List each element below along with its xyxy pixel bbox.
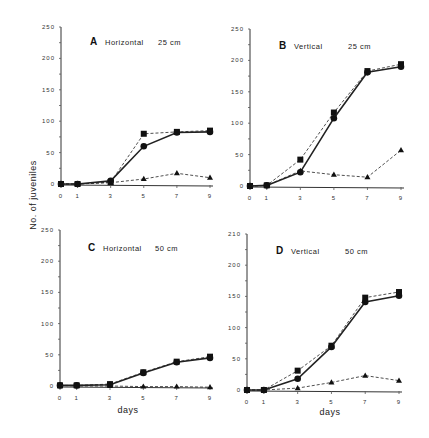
y-tick-label: 210 — [228, 231, 241, 237]
triangle-marker — [398, 147, 404, 152]
x-tick-label: 3 — [295, 399, 299, 405]
panel-letter: D — [276, 245, 283, 256]
series-line-circle — [61, 132, 210, 184]
y-tick-label: 200 — [42, 55, 55, 61]
series-line-triangle — [61, 173, 210, 184]
y-tick-label: 250 — [42, 24, 55, 30]
panel-depth: 50 cm — [155, 244, 178, 253]
x-tick-label: 3 — [298, 195, 302, 201]
x-tick-label: 1 — [74, 395, 78, 401]
x-tick-label: 5 — [329, 399, 333, 405]
x-tick-label: 7 — [175, 193, 179, 199]
x-tick-label: 7 — [174, 395, 178, 401]
y-tick-label: 250 — [231, 26, 244, 32]
triangle-marker — [207, 384, 213, 389]
circle-marker — [174, 129, 181, 136]
circle-marker — [294, 375, 301, 382]
panel-orientation: Vertical — [291, 247, 320, 256]
x-tick-label: 1 — [262, 399, 266, 405]
triangle-marker — [174, 383, 180, 388]
circle-marker — [362, 299, 369, 306]
panel-letter: B — [279, 40, 286, 51]
x-tick-label: 5 — [332, 195, 336, 201]
x-axis-label: days — [117, 405, 138, 415]
circle-marker — [140, 370, 147, 377]
series-line-square — [61, 131, 210, 184]
circle-marker — [331, 115, 338, 122]
y-tick-label: 150 — [228, 293, 241, 299]
x-tick-label: 7 — [365, 195, 369, 201]
y-tick-label: 200 — [41, 258, 54, 264]
y-tick-label: 150 — [41, 289, 54, 295]
x-tick-label: 9 — [397, 399, 401, 405]
triangle-marker — [331, 171, 337, 176]
x-tick-label: 9 — [208, 395, 212, 401]
circle-marker — [207, 129, 214, 136]
x-tick-label: 9 — [399, 195, 403, 201]
x-tick-label: 9 — [208, 193, 212, 199]
square-marker — [141, 131, 147, 137]
x-tick-label: 5 — [142, 193, 146, 199]
panel-letter: A — [90, 36, 97, 47]
series-line-triangle — [250, 150, 401, 186]
x-axis-label: days — [319, 407, 340, 417]
x-tick-label: 3 — [108, 395, 112, 401]
y-tick-label: 50 — [46, 150, 55, 156]
panel-a: 050100150200250013579AHorizontal25 cm — [42, 24, 213, 199]
square-marker — [297, 157, 303, 163]
series-line-square — [247, 292, 399, 390]
triangle-marker — [364, 174, 370, 179]
circle-marker — [207, 355, 214, 362]
x-tick-label: 0 — [248, 195, 252, 201]
y-tick-label: 0 — [240, 183, 244, 189]
panel-d: 050100150200210013579DVertical50 cm — [228, 231, 402, 405]
y-tick-label: 200 — [228, 262, 241, 268]
y-axis-label: No. of juveniles — [28, 160, 38, 230]
y-tick-label: 200 — [231, 57, 244, 63]
circle-marker — [364, 69, 371, 76]
y-tick-label: 100 — [41, 321, 54, 327]
y-tick-label: 0 — [51, 181, 55, 187]
triangle-marker — [362, 372, 368, 377]
triangle-marker — [174, 170, 180, 175]
x-tick-label: 1 — [265, 195, 269, 201]
series-line-circle — [250, 67, 401, 186]
panel-b: 050100150200250013579BVertical25 cm — [231, 26, 404, 201]
x-axis — [250, 187, 404, 188]
panel-orientation: Vertical — [294, 42, 323, 51]
circle-marker — [328, 344, 335, 351]
x-tick-label: 1 — [75, 193, 79, 199]
panel-depth: 50 cm — [345, 247, 368, 256]
circle-marker — [398, 63, 405, 70]
series-line-square — [250, 64, 401, 186]
y-tick-label: 50 — [235, 152, 244, 158]
y-tick-label: 100 — [42, 118, 55, 124]
y-tick-label: 50 — [232, 356, 241, 362]
panel-orientation: Horizontal — [105, 38, 144, 47]
series-line-circle — [60, 358, 210, 386]
x-axis — [247, 391, 402, 392]
x-axis — [61, 185, 213, 186]
y-tick-label: 150 — [42, 87, 55, 93]
circle-marker — [396, 292, 403, 299]
y-tick-label: 0 — [50, 383, 54, 389]
x-tick-label: 3 — [108, 193, 112, 199]
y-tick-label: 0 — [237, 387, 241, 393]
circle-marker — [140, 143, 147, 150]
panel-depth: 25 cm — [348, 42, 371, 51]
x-tick-label: 0 — [59, 193, 63, 199]
x-tick-label: 0 — [58, 395, 62, 401]
series-line-circle — [247, 296, 399, 390]
x-tick-label: 5 — [141, 395, 145, 401]
circle-marker — [173, 359, 180, 366]
panel-letter: C — [88, 242, 95, 253]
y-tick-label: 100 — [228, 325, 241, 331]
x-tick-label: 7 — [363, 399, 367, 405]
panel-depth: 25 cm — [158, 38, 181, 47]
triangle-marker — [140, 383, 146, 388]
x-tick-label: 0 — [245, 399, 249, 405]
square-marker — [295, 368, 301, 374]
figure-canvas: 050100150200250013579AHorizontal25 cm050… — [0, 0, 429, 438]
y-tick-label: 100 — [231, 120, 244, 126]
panel-c: 050100150200250013579CHorizontal50 cm — [41, 227, 213, 401]
